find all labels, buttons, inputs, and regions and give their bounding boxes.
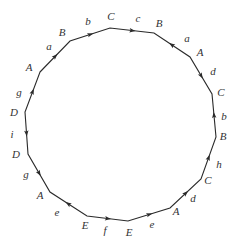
vertex-label: B <box>220 130 227 142</box>
vertex-label: A <box>172 205 180 217</box>
vertex-label: A <box>36 189 44 201</box>
edge-label: d <box>190 192 196 204</box>
vertex-label: B <box>156 17 163 29</box>
edge-label: g <box>16 86 22 98</box>
vertex-label: C <box>107 10 115 22</box>
edge-labels-layer: abcadbhdefegig <box>10 12 227 236</box>
edge-label: a <box>46 40 52 52</box>
arrow-icon <box>36 170 41 176</box>
edge-label: c <box>136 12 141 24</box>
vertex-label: D <box>11 148 20 160</box>
edge-label: a <box>184 32 190 44</box>
vertex-label: A <box>196 46 204 58</box>
edge-label: b <box>221 110 227 122</box>
edge-label: e <box>150 218 155 230</box>
vertex-label: D <box>9 106 18 118</box>
arrow-icon <box>169 43 175 48</box>
vertex-label: C <box>204 174 212 186</box>
arrow-icon <box>66 202 72 207</box>
edge-label: e <box>55 206 60 218</box>
edge-label: i <box>10 128 13 140</box>
edge-label: d <box>210 65 216 77</box>
edge-label: g <box>23 168 29 180</box>
vertex-label: C <box>217 86 225 98</box>
vertex-label: E <box>125 226 133 238</box>
arrows-layer <box>24 28 216 220</box>
vertex-label: E <box>81 219 89 231</box>
vertex-label: A <box>25 61 33 73</box>
vertex-label: B <box>59 26 66 38</box>
arrow-icon <box>198 72 203 78</box>
polygon-diagram: ABCBACBCAEEADD abcadbhdefegig <box>0 0 243 247</box>
edge-label: f <box>103 224 108 236</box>
edge-label: b <box>85 15 91 27</box>
edge-label: h <box>216 158 222 170</box>
